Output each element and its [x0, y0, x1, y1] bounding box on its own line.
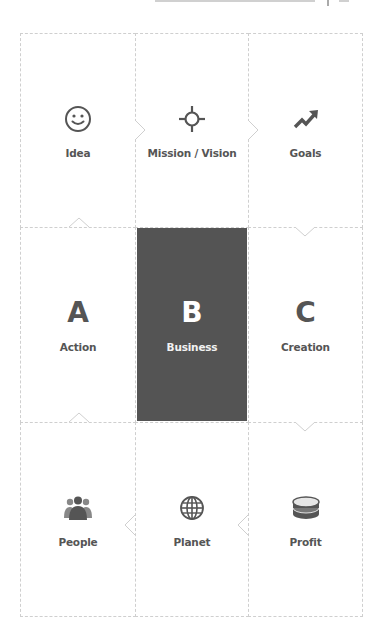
cell-letter: B — [181, 297, 202, 329]
header-mark — [327, 0, 329, 6]
cell-planet: Planet — [135, 422, 249, 617]
cell-label: Action — [60, 341, 96, 353]
coin-stack-icon — [290, 492, 322, 524]
cell-label: Profit — [289, 536, 321, 548]
cell-label: Goals — [290, 147, 322, 159]
cell-idea: Idea — [20, 33, 136, 228]
cell-label: Creation — [281, 341, 330, 353]
globe-icon — [176, 492, 208, 524]
cell-label: Business — [167, 341, 218, 353]
cell-goals: Goals — [248, 33, 363, 228]
cropped-header-line — [155, 0, 355, 3]
cell-creation: C Creation — [248, 227, 363, 423]
crosshair-target-icon — [176, 103, 208, 135]
cell-people: People — [20, 422, 136, 617]
cell-label: Idea — [66, 147, 91, 159]
cell-letter: A — [67, 297, 89, 329]
cell-action: A Action — [20, 227, 136, 423]
cell-letter: C — [295, 297, 316, 329]
smiley-face-icon — [62, 103, 94, 135]
cell-label: People — [58, 536, 97, 548]
header-rule — [155, 0, 315, 2]
cell-label: Mission / Vision — [148, 147, 237, 159]
cell-label: Planet — [174, 536, 211, 548]
cell-business-highlighted: B Business — [137, 228, 247, 421]
header-rule-end — [339, 0, 349, 2]
cell-profit: Profit — [248, 422, 363, 617]
trending-up-arrow-icon — [290, 103, 322, 135]
people-group-icon — [62, 492, 94, 524]
cell-mission-vision: Mission / Vision — [135, 33, 249, 228]
business-flow-grid: Idea Mission / Vision Goals A Action B B… — [20, 33, 363, 617]
